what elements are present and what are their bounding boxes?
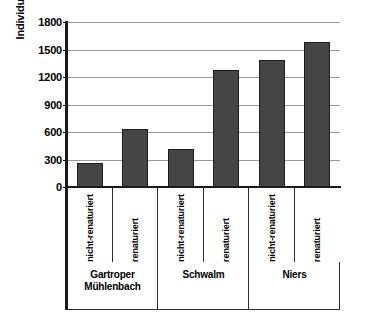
y-tick-label: 1800 bbox=[28, 17, 62, 28]
bar bbox=[259, 60, 285, 187]
condition-label: renaturiert bbox=[130, 217, 140, 262]
group-label-line: Gartroper bbox=[84, 269, 140, 281]
group-label-cell: Schwalm bbox=[158, 262, 249, 309]
group-label-line: Schwalm bbox=[183, 269, 225, 281]
condition-label: nicht-renaturiert bbox=[85, 193, 95, 262]
y-tick-label: 1200 bbox=[28, 72, 62, 83]
y-axis-tick-labels: 1800150012009006003000 bbox=[28, 0, 62, 335]
group-label-cell: GartroperMühlenbach bbox=[67, 262, 158, 309]
condition-label-cell: nicht-renaturiert bbox=[158, 188, 204, 262]
condition-label-cell: renaturiert bbox=[204, 188, 250, 262]
bar bbox=[168, 149, 194, 187]
condition-label: nicht-renaturiert bbox=[267, 193, 277, 262]
cell-divider bbox=[339, 188, 340, 262]
category-label-table: nicht-renaturiertrenaturiertnicht-renatu… bbox=[67, 188, 340, 310]
group-divider bbox=[339, 262, 341, 309]
group-label: Niers bbox=[282, 269, 306, 281]
group-label-line: Niers bbox=[282, 269, 306, 281]
condition-label: renaturiert bbox=[312, 217, 322, 262]
bar bbox=[77, 163, 103, 187]
plot-area bbox=[67, 22, 340, 187]
group-label-cell: Niers bbox=[249, 262, 340, 309]
y-tick-label: 300 bbox=[28, 154, 62, 165]
condition-label: renaturiert bbox=[221, 217, 231, 262]
group-label-line: Mühlenbach bbox=[84, 281, 140, 293]
condition-label-cell: renaturiert bbox=[295, 188, 341, 262]
bar bbox=[213, 70, 239, 187]
bars-layer bbox=[67, 22, 340, 187]
y-tick-label: 600 bbox=[28, 127, 62, 138]
group-label: Schwalm bbox=[183, 269, 225, 281]
y-tick-label: 1500 bbox=[28, 44, 62, 55]
condition-label-cell: nicht-renaturiert bbox=[249, 188, 295, 262]
condition-label-cell: renaturiert bbox=[113, 188, 159, 262]
bar bbox=[304, 42, 330, 187]
condition-label-row: nicht-renaturiertrenaturiertnicht-renatu… bbox=[67, 188, 340, 262]
condition-label: nicht-renaturiert bbox=[176, 193, 186, 262]
y-tick-label: 0 bbox=[28, 182, 62, 193]
condition-label-cell: nicht-renaturiert bbox=[67, 188, 113, 262]
group-label: GartroperMühlenbach bbox=[84, 269, 140, 292]
bar-chart-figure: Individuen/m² 1800150012009006003000 nic… bbox=[0, 0, 365, 335]
bar bbox=[122, 129, 148, 187]
y-tick-label: 900 bbox=[28, 99, 62, 110]
group-label-row: GartroperMühlenbachSchwalmNiers bbox=[67, 262, 340, 310]
